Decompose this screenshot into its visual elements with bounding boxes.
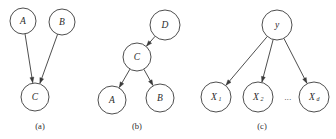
arrowhead-icon: [30, 77, 34, 83]
edge-b-C-to-B: [144, 69, 153, 85]
panel-a: ABC(a): [10, 8, 75, 131]
node-b-A[interactable]: A: [98, 86, 126, 114]
node-a-B[interactable]: B: [49, 9, 75, 35]
edge-c-y-to-X1: [226, 36, 267, 85]
node-c-X1[interactable]: X1: [201, 82, 231, 112]
panel-b: DCAB(b): [98, 10, 180, 131]
panel-caption-a: (a): [35, 121, 45, 131]
node-label: B: [59, 17, 65, 27]
node-a-C[interactable]: C: [21, 83, 49, 111]
node-c-Xd[interactable]: Xd: [299, 82, 329, 112]
node-label: C: [134, 52, 141, 62]
node-b-D[interactable]: D: [150, 10, 180, 40]
graph-canvas: ABC(a)DCAB(b)yX1X2Xd...(c): [0, 0, 336, 139]
ellipsis-label: ...: [284, 93, 291, 102]
node-label: X: [308, 92, 316, 102]
panel-c: yX1X2Xd...(c): [201, 10, 329, 131]
arrowhead-icon: [303, 78, 307, 84]
edge-b-C-to-A: [119, 69, 130, 87]
node-label: y: [274, 20, 280, 30]
node-label: D: [161, 20, 169, 30]
arrowhead-icon: [40, 78, 44, 84]
node-a-A[interactable]: A: [10, 8, 36, 34]
node-label: C: [32, 92, 39, 102]
panel-caption-b: (b): [132, 121, 142, 131]
node-label: B: [157, 93, 163, 103]
node-label: X: [252, 92, 260, 102]
edge-c-y-to-X2: [261, 40, 273, 83]
arrowhead-icon: [149, 80, 153, 86]
bayesian-network-figure: ABC(a)DCAB(b)yX1X2Xd...(c): [0, 0, 336, 139]
node-label: A: [19, 16, 26, 26]
node-c-X2[interactable]: X2: [243, 82, 273, 112]
edge-c-y-to-Xd: [284, 38, 307, 83]
node-b-B[interactable]: B: [146, 84, 174, 112]
edge-b-D-to-C: [147, 36, 156, 46]
edge-a-A-to-C: [25, 34, 34, 83]
node-label: X: [210, 92, 218, 102]
node-label-subscript: 1: [219, 96, 222, 102]
arrowhead-icon: [119, 82, 123, 88]
panel-caption-c: (c): [257, 121, 267, 131]
edge-a-B-to-C: [40, 34, 58, 83]
node-c-y[interactable]: y: [262, 10, 292, 40]
node-label: A: [108, 95, 115, 105]
node-label-subscript: 2: [261, 96, 264, 102]
node-b-C[interactable]: C: [123, 43, 151, 71]
arrowhead-icon: [261, 76, 265, 82]
